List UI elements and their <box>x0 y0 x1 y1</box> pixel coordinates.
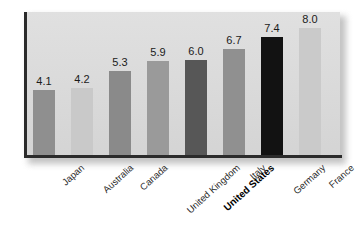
bar-value-label: 5.9 <box>138 46 178 58</box>
bar-rect <box>223 49 245 155</box>
x-tick-label-germany: Germany <box>291 162 327 196</box>
x-tick-label-japan: Japan <box>60 162 87 187</box>
x-tick-label-australia: Australia <box>100 162 135 195</box>
bar-rect <box>147 61 169 155</box>
bar-united-kingdom <box>147 61 169 155</box>
bar-rect <box>299 28 321 155</box>
bar-rect <box>185 60 207 155</box>
x-tick-label-canada: Canada <box>138 162 170 192</box>
bar-value-label: 6.0 <box>176 45 216 57</box>
bar-germany <box>261 37 283 155</box>
bar-rect <box>71 88 93 155</box>
bar-japan <box>33 90 55 155</box>
bar-rect <box>109 71 131 155</box>
bar-france <box>299 28 321 155</box>
bar-australia <box>71 88 93 155</box>
bar-rect <box>33 90 55 155</box>
x-tick-label-france: France <box>327 162 356 190</box>
bar-value-label: 8.0 <box>290 13 330 25</box>
bar-value-label: 7.4 <box>252 22 292 34</box>
bar-value-label: 6.7 <box>214 34 254 46</box>
bar-united-states <box>185 60 207 155</box>
bar-rect <box>261 37 283 155</box>
bar-chart-figure: JapanAustraliaCanadaUnited KingdomUnited… <box>0 0 358 243</box>
bar-value-label: 4.2 <box>62 73 102 85</box>
bar-value-label: 5.3 <box>100 56 140 68</box>
x-axis-line <box>24 155 342 158</box>
bar-canada <box>109 71 131 155</box>
bar-value-label: 4.1 <box>24 75 64 87</box>
bar-italy <box>223 49 245 155</box>
